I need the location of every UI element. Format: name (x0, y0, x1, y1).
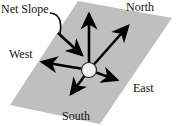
center-origin-node (82, 63, 97, 78)
label-east: East (133, 82, 154, 94)
label-west: West (9, 48, 33, 60)
net-slope-diagram: Net Slope North West East South (0, 0, 181, 126)
label-north: North (126, 1, 154, 13)
label-south: South (62, 110, 90, 122)
diagram-canvas (0, 0, 181, 126)
label-net-slope: Net Slope (1, 3, 49, 15)
